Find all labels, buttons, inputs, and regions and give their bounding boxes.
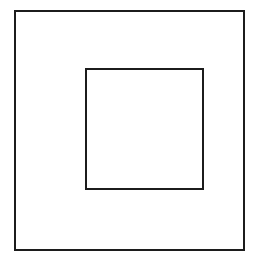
figure-background xyxy=(0,0,258,264)
figure-container: Nested squares A large square outline co… xyxy=(0,0,258,264)
nested-squares-diagram: Nested squares A large square outline co… xyxy=(0,0,258,264)
